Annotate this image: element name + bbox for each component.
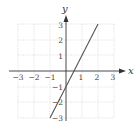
y-tick-label: 2 (58, 36, 63, 45)
x-tick-label: −3 (12, 73, 23, 82)
x-tick-label: 2 (95, 73, 100, 82)
y-axis-arrow-icon (64, 15, 69, 22)
y-tick-label: −3 (52, 114, 63, 123)
x-tick-label: −2 (28, 73, 39, 82)
x-axis (9, 69, 126, 74)
x-axis-arrow-icon (119, 69, 126, 74)
x-tick-label: −1 (44, 73, 55, 82)
coordinate-plane: x y −3 −2 −1 1 2 3 3 2 1 −1 −2 −3 (0, 0, 138, 123)
y-tick-label: 1 (58, 52, 63, 61)
y-tick-label: −2 (52, 98, 63, 107)
y-tick-label: −1 (52, 83, 63, 92)
x-axis-label: x (128, 65, 134, 76)
y-axis-label: y (61, 3, 68, 14)
x-tick-label: 3 (111, 73, 116, 82)
y-tick-label: 3 (58, 21, 63, 30)
y-axis (64, 15, 69, 121)
x-tick-label: 1 (79, 73, 84, 82)
